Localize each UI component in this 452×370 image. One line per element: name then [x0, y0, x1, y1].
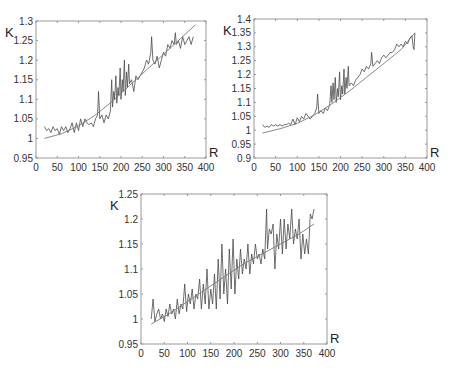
x-tick-label: 200: [113, 162, 130, 173]
x-tick-label: 100: [70, 162, 87, 173]
x-tick-label: 400: [319, 348, 336, 359]
x-axis-label: R: [330, 331, 339, 346]
y-tick-label: 1.05: [14, 113, 34, 124]
measured-line: [263, 33, 415, 128]
y-tick-label: 1.1: [237, 97, 251, 108]
x-tick-label: 150: [202, 348, 219, 359]
x-tick-label: 200: [226, 348, 243, 359]
x-tick-label: 350: [176, 162, 193, 173]
x-tick-label: 300: [375, 162, 392, 173]
chart-top-left: 0501001502002503003504000.9511.051.11.15…: [5, 16, 218, 174]
y-tick-label: 1: [132, 314, 138, 325]
x-tick-label: 350: [397, 162, 414, 173]
y-tick-label: 0.95: [14, 153, 34, 164]
y-tick-label: 0.95: [119, 339, 139, 350]
y-tick-label: 1.05: [119, 289, 139, 300]
y-tick-label: 1.25: [232, 55, 252, 66]
y-tick-label: 1.25: [119, 189, 139, 200]
y-tick-label: 1.1: [124, 264, 138, 275]
y-tick-label: 1.2: [124, 214, 138, 225]
x-tick-label: 400: [198, 162, 215, 173]
x-tick-label: 50: [270, 162, 282, 173]
y-axis-label: K: [5, 25, 14, 40]
y-tick-label: 1.2: [237, 69, 251, 80]
x-tick-label: 0: [138, 348, 144, 359]
y-tick-label: 0.9: [237, 153, 251, 164]
x-axis-label: R: [430, 145, 439, 160]
y-tick-label: 1.3: [237, 41, 251, 52]
fit-curve: [151, 224, 314, 324]
chart-bottom: 0501001502002503003504000.9511.051.11.15…: [110, 189, 339, 360]
measured-line: [151, 209, 314, 322]
x-tick-label: 300: [272, 348, 289, 359]
x-tick-label: 200: [332, 162, 349, 173]
x-tick-label: 300: [155, 162, 172, 173]
x-tick-label: 100: [289, 162, 306, 173]
x-tick-label: 400: [419, 162, 436, 173]
y-tick-label: 1: [27, 133, 33, 144]
y-tick-label: 1.25: [14, 35, 34, 46]
y-tick-label: 1.15: [119, 239, 139, 250]
x-tick-label: 50: [52, 162, 64, 173]
y-tick-label: 1.3: [19, 16, 33, 27]
y-tick-label: 1.4: [237, 14, 251, 25]
x-tick-label: 50: [159, 348, 171, 359]
y-axis-label: K: [110, 198, 119, 213]
x-tick-label: 250: [134, 162, 151, 173]
x-tick-label: 100: [179, 348, 196, 359]
chart-canvas: 0501001502002503003504000.9511.051.11.15…: [0, 0, 452, 370]
x-tick-label: 250: [249, 348, 266, 359]
x-tick-label: 150: [311, 162, 328, 173]
y-tick-label: 1.1: [19, 94, 33, 105]
y-tick-label: 1.2: [19, 55, 33, 66]
chart-top-right: 0501001502002503003504000.90.9511.051.11…: [223, 14, 439, 174]
x-axis-label: R: [209, 145, 218, 160]
x-tick-label: 150: [91, 162, 108, 173]
y-tick-label: 0.95: [232, 139, 252, 150]
x-tick-label: 0: [33, 162, 39, 173]
y-tick-label: 1.35: [232, 27, 252, 38]
y-tick-label: 1.15: [232, 83, 252, 94]
y-tick-label: 1.15: [14, 74, 34, 85]
x-tick-label: 250: [354, 162, 371, 173]
x-tick-label: 350: [295, 348, 312, 359]
y-axis-label: K: [223, 23, 232, 38]
y-tick-label: 1: [245, 125, 251, 136]
y-tick-label: 1.05: [232, 111, 252, 122]
x-tick-label: 0: [251, 162, 257, 173]
